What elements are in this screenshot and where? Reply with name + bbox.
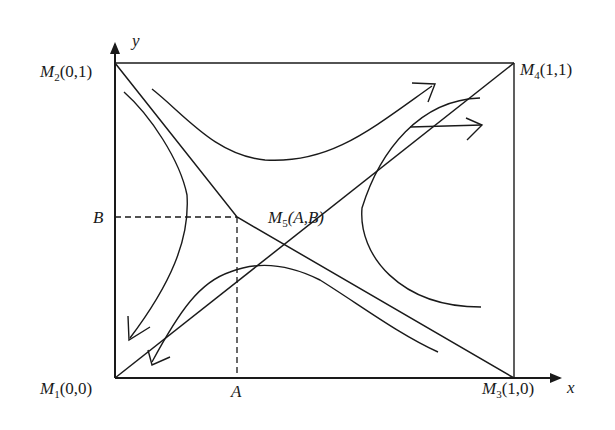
label-m4: M4(1,1) [519, 60, 572, 81]
trajectory-right-arrow [362, 98, 481, 307]
label-m2: M2(0,1) [39, 62, 92, 83]
phase-diagram: y x M2(0,1) M4(1,1) M1(0,0) M3(1,0) M5(A… [0, 0, 615, 430]
x-axis-label: x [566, 378, 575, 397]
label-m1: M1(0,0) [39, 379, 92, 400]
arrowhead-right-line [410, 125, 482, 127]
tick-label-b: B [93, 208, 104, 227]
y-axis-label: y [130, 31, 140, 50]
label-m3: M3(1,0) [481, 379, 534, 400]
label-m5: M5(A,B) [267, 208, 324, 229]
arrowhead-right [466, 118, 482, 140]
tick-label-a: A [230, 382, 242, 401]
arrowhead-lower [148, 350, 170, 365]
trajectory-left-arrow [124, 92, 187, 338]
